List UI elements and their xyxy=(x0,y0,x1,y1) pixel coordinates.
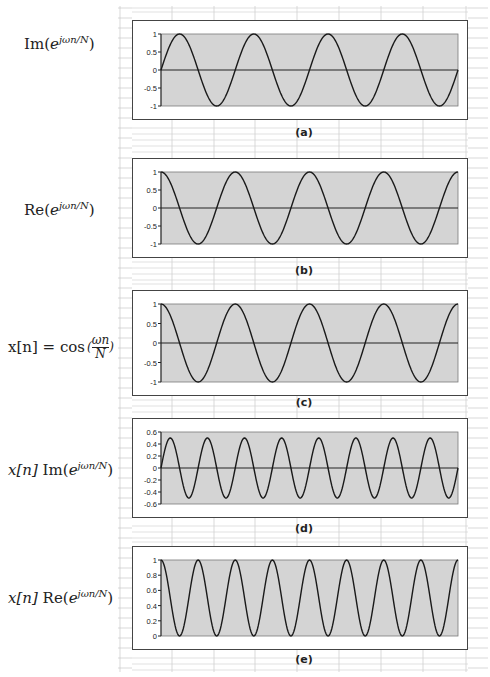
line-chart-d: 0.60.40.20-0.2-0.4-0.6 xyxy=(133,419,467,517)
svg-text:-0.5: -0.5 xyxy=(144,84,157,93)
formula-func: Re xyxy=(43,589,63,607)
svg-text:0: 0 xyxy=(153,632,157,641)
caption-b: (b) xyxy=(284,264,324,277)
caption-c: (c) xyxy=(284,396,324,409)
formula-prefix: x[n] xyxy=(8,589,38,607)
formula-b: Re(ejωn/N) xyxy=(24,200,95,219)
chart-panel-b: 10.50-0.5-1 xyxy=(132,158,468,258)
svg-text:0: 0 xyxy=(153,204,157,213)
formula-exponent: jωn/N xyxy=(78,460,108,471)
svg-text:0.8: 0.8 xyxy=(147,571,157,580)
svg-text:0.6: 0.6 xyxy=(147,428,157,437)
svg-text:1: 1 xyxy=(153,300,157,309)
svg-text:-1: -1 xyxy=(150,240,157,249)
formula-exponent: jωn/N xyxy=(78,588,108,599)
svg-text:0.5: 0.5 xyxy=(147,48,157,57)
svg-text:0.4: 0.4 xyxy=(147,440,157,449)
fraction-numerator: ωn xyxy=(92,334,110,348)
caption-e: (e) xyxy=(284,653,324,666)
line-chart-e: 10.80.60.40.20 xyxy=(133,547,467,649)
svg-text:-1: -1 xyxy=(150,378,157,387)
line-chart-b: 10.50-0.5-1 xyxy=(133,159,467,257)
svg-text:1: 1 xyxy=(153,30,157,39)
svg-text:0: 0 xyxy=(153,339,157,348)
svg-text:-0.4: -0.4 xyxy=(144,488,157,497)
chart-panel-c: 10.50-0.5-1 xyxy=(132,290,468,396)
formula-base: e xyxy=(50,201,59,219)
svg-text:-0.5: -0.5 xyxy=(144,222,157,231)
svg-text:0: 0 xyxy=(153,66,157,75)
formula-exponent: jωn/N xyxy=(59,200,89,211)
formula-d: x[n] Im(ejωn/N) xyxy=(8,460,113,479)
formula-a: Im(ejωn/N) xyxy=(24,34,95,53)
svg-text:0.6: 0.6 xyxy=(147,586,157,595)
formula-base: e xyxy=(69,589,78,607)
line-chart-a: 10.50-0.5-1 xyxy=(133,21,467,119)
svg-text:0: 0 xyxy=(153,464,157,473)
svg-text:0.5: 0.5 xyxy=(147,186,157,195)
svg-text:0.4: 0.4 xyxy=(147,602,157,611)
svg-text:-0.6: -0.6 xyxy=(144,500,157,509)
svg-text:1: 1 xyxy=(153,168,157,177)
svg-text:-0.2: -0.2 xyxy=(144,476,157,485)
formula-exponent: jωn/N xyxy=(59,34,89,45)
caption-d: (d) xyxy=(284,522,324,535)
chart-panel-d: 0.60.40.20-0.2-0.4-0.6 xyxy=(132,418,468,518)
svg-text:-1: -1 xyxy=(150,102,157,111)
line-chart-c: 10.50-0.5-1 xyxy=(133,291,467,395)
chart-panel-a: 10.50-0.5-1 xyxy=(132,20,468,120)
formula-base: e xyxy=(50,35,59,53)
formula-func: Im xyxy=(24,35,44,53)
svg-text:0.2: 0.2 xyxy=(147,617,157,626)
formula-func: Im xyxy=(43,461,63,479)
svg-text:1: 1 xyxy=(153,556,157,565)
fraction-denominator: N xyxy=(92,348,110,361)
formula-prefix: x[n] = cos xyxy=(8,338,85,356)
chart-panel-e: 10.80.60.40.20 xyxy=(132,546,468,650)
svg-text:0.2: 0.2 xyxy=(147,452,157,461)
formula-e: x[n] Re(ejωn/N) xyxy=(8,588,113,607)
formula-c: x[n] = cos(ωnN) xyxy=(8,334,114,361)
formula-func: Re xyxy=(24,201,44,219)
formula-base: e xyxy=(69,461,78,479)
formula-prefix: x[n] xyxy=(8,461,38,479)
caption-a: (a) xyxy=(284,126,324,139)
svg-text:-0.5: -0.5 xyxy=(144,359,157,368)
svg-text:0.5: 0.5 xyxy=(147,320,157,329)
